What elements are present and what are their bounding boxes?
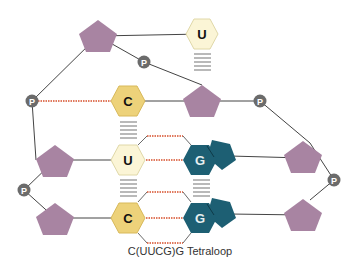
phosphate-lower-right: P	[328, 174, 341, 187]
sugar-row2	[183, 85, 221, 117]
sugars	[36, 20, 322, 235]
phosphate-top: P	[138, 56, 151, 69]
backbone	[24, 34, 334, 218]
phosphate-left: P	[26, 95, 39, 108]
base-U-top: U	[186, 19, 218, 49]
svg-text:U: U	[123, 153, 132, 168]
sugar-row3-left	[36, 145, 74, 177]
svg-text:G: G	[195, 153, 205, 168]
bond-connectors	[138, 136, 191, 243]
svg-text:C: C	[123, 211, 133, 226]
base-G-row3: G	[183, 140, 236, 175]
svg-text:P: P	[331, 176, 337, 186]
base-C-row2: C	[111, 86, 145, 116]
sugar-row4-left	[36, 203, 74, 235]
svg-text:G: G	[195, 211, 205, 226]
sugar-top	[79, 20, 117, 52]
tetraloop-diagram: U C U C G G P P P P P C(UUCG)G Tetraloop	[0, 0, 360, 269]
svg-text:P: P	[141, 58, 147, 68]
figure-caption: C(UUCG)G Tetraloop	[0, 245, 360, 257]
sugar-row3-right	[284, 141, 322, 173]
phosphate-lower-left: P	[18, 184, 31, 197]
svg-text:C: C	[123, 94, 133, 109]
base-U-row3: U	[111, 145, 145, 175]
svg-text:P: P	[257, 97, 263, 107]
base-C-row4: C	[111, 203, 145, 233]
svg-text:P: P	[29, 97, 35, 107]
svg-text:U: U	[197, 27, 206, 42]
diagram-canvas: U C U C G G P P P P P	[0, 0, 360, 269]
base-G-row4: G	[183, 198, 236, 233]
phosphate-right: P	[254, 95, 267, 108]
sugar-row4-right	[284, 199, 322, 231]
svg-text:P: P	[21, 186, 27, 196]
